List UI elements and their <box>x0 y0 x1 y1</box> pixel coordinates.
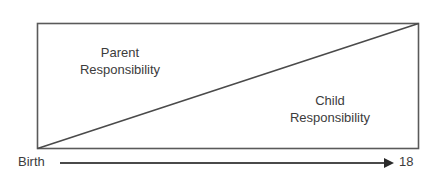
diagonal-divider <box>38 24 419 149</box>
arrowhead-icon <box>384 158 394 168</box>
parent-responsibility-label: Parent Responsibility <box>60 44 180 78</box>
parent-label-line1: Parent <box>60 44 180 61</box>
axis-start-label: Birth <box>18 154 45 169</box>
axis-end-label: 18 <box>399 154 413 169</box>
parent-label-line2: Responsibility <box>60 61 180 78</box>
child-label-line2: Responsibility <box>270 109 390 126</box>
child-label-line1: Child <box>270 92 390 109</box>
child-responsibility-label: Child Responsibility <box>270 92 390 126</box>
